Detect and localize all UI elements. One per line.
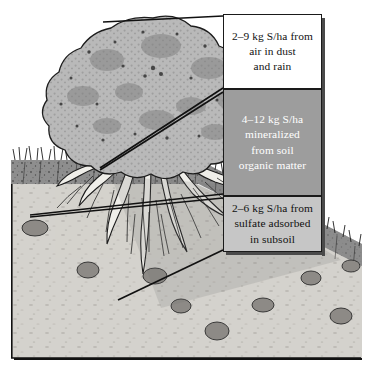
callout-air-dust-rain: 2–9 kg S/ha from air in dust and rain [223, 14, 322, 89]
callout-sulfate-adsorbed-subsoil: 2–6 kg S/ha from sulfate adsorbed in sub… [223, 196, 322, 252]
callout-air-text: 2–9 kg S/ha from air in dust and rain [232, 29, 313, 74]
callout-subsoil-text: 2–6 kg S/ha from sulfate adsorbed in sub… [232, 201, 313, 246]
callout-organic-text: 4–12 kg S/ha mineralized from soil organ… [239, 112, 306, 173]
callout-mineralized-soil-organic-matter: 4–12 kg S/ha mineralized from soil organ… [223, 89, 322, 196]
callout-stack-shadow-right [322, 18, 325, 256]
sulfur-cycle-figure: 2–9 kg S/ha from air in dust and rain 4–… [0, 0, 374, 373]
callout-stack-shadow-bottom [226, 252, 325, 255]
